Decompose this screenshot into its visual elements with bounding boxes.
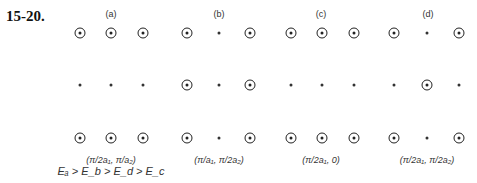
wavevector-label: (π/a₁, π/2a₂) (194, 155, 243, 165)
circled-dot-icon (75, 133, 86, 144)
circled-dot-icon (389, 28, 400, 39)
circled-dot-icon (286, 133, 297, 144)
dot-icon (110, 84, 113, 87)
dot-icon (393, 84, 396, 87)
circled-dot-icon (75, 28, 86, 39)
circled-dot-icon (106, 28, 117, 39)
circled-dot-icon (454, 28, 465, 39)
dot-icon (426, 32, 429, 35)
panel-caption: (π/a₁, π/2a₂) (194, 155, 243, 165)
circled-dot-icon (245, 80, 256, 91)
energy-ordering-label: Eₐ > E_b > E_d > E_c (58, 166, 165, 176)
circled-dot-icon (317, 133, 328, 144)
panel-label: (a) (106, 9, 117, 19)
circled-dot-icon (182, 133, 193, 144)
panel-label: (b) (214, 9, 225, 19)
dot-icon (218, 137, 221, 140)
circled-dot-icon (389, 133, 400, 144)
circled-dot-icon (138, 133, 149, 144)
panel-caption: (π/2a₁, 0) (302, 155, 339, 165)
circled-dot-icon (454, 133, 465, 144)
circled-dot-icon (349, 28, 360, 39)
dot-icon (321, 84, 324, 87)
wavevector-label: (π/2a₁, π/2a₂) (400, 155, 454, 165)
panel-caption: (π/2a₁, π/2a₂) (400, 155, 454, 165)
dot-icon (290, 84, 293, 87)
circled-dot-icon (286, 28, 297, 39)
dot-icon (142, 84, 145, 87)
circled-dot-icon (182, 80, 193, 91)
circled-dot-icon (422, 80, 433, 91)
circled-dot-icon (349, 133, 360, 144)
circled-dot-icon (106, 133, 117, 144)
circled-dot-icon (182, 28, 193, 39)
panel-label: (c) (316, 9, 327, 19)
circled-dot-icon (245, 133, 256, 144)
problem-number: 15-20. (6, 8, 45, 25)
panel-caption: (π/2a₁, π/a₂)Eₐ > E_b > E_d > E_c (58, 155, 165, 176)
wavevector-label: (π/2a₁, π/a₂) (58, 155, 165, 165)
circled-dot-icon (317, 28, 328, 39)
dot-icon (218, 84, 221, 87)
dot-icon (426, 137, 429, 140)
dot-icon (218, 32, 221, 35)
dot-icon (353, 84, 356, 87)
dot-icon (79, 84, 82, 87)
wavevector-label: (π/2a₁, 0) (302, 155, 339, 165)
circled-dot-icon (138, 28, 149, 39)
panel-label: (d) (423, 9, 434, 19)
dot-icon (458, 84, 461, 87)
circled-dot-icon (245, 28, 256, 39)
